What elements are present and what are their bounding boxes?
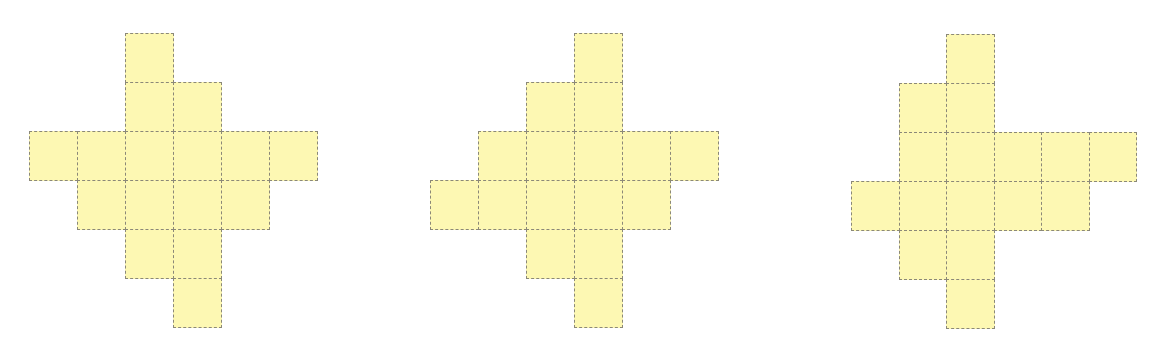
grid-cell: [1041, 132, 1090, 182]
grid-cell: [622, 131, 671, 181]
grid-cell: [899, 83, 948, 133]
grid-cell: [574, 229, 623, 279]
grid-cell: [478, 131, 527, 181]
grid-cell: [77, 131, 126, 181]
grid-cell: [1041, 181, 1090, 231]
grid-cell: [946, 132, 995, 182]
grid-cell: [899, 230, 948, 280]
grid-cell: [173, 131, 222, 181]
grid-cell: [173, 278, 222, 328]
grid-cell: [125, 229, 174, 279]
grid-cell: [946, 34, 995, 84]
grid-cell: [946, 230, 995, 280]
grid-cell: [173, 180, 222, 230]
grid-cell: [946, 83, 995, 133]
grid-cell: [574, 33, 623, 83]
grid-cell: [574, 180, 623, 230]
grid-cell: [29, 131, 78, 181]
grid-cell: [125, 131, 174, 181]
grid-cell: [430, 180, 479, 230]
grid-cell: [994, 132, 1043, 182]
grid-cell: [125, 82, 174, 132]
grid-cell: [946, 279, 995, 329]
grid-cell: [125, 33, 174, 83]
grid-cell: [526, 82, 575, 132]
grid-cell: [851, 181, 900, 231]
grid-cell: [899, 132, 948, 182]
grid-cell: [221, 131, 270, 181]
grid-cell: [77, 180, 126, 230]
grid-cell: [574, 131, 623, 181]
grid-cell: [478, 180, 527, 230]
grid-cell: [574, 82, 623, 132]
grid-cell: [173, 82, 222, 132]
grid-cell: [526, 131, 575, 181]
grid-cell: [526, 180, 575, 230]
grid-cell: [899, 181, 948, 231]
grid-cell: [125, 180, 174, 230]
grid-cell: [670, 131, 719, 181]
grid-cell: [269, 131, 318, 181]
grid-cell: [526, 229, 575, 279]
grid-cell: [574, 278, 623, 328]
grid-cell: [221, 180, 270, 230]
grid-cell: [173, 229, 222, 279]
grid-cell: [622, 180, 671, 230]
grid-cell: [994, 181, 1043, 231]
grid-cell: [946, 181, 995, 231]
grid-cell: [1089, 132, 1138, 182]
